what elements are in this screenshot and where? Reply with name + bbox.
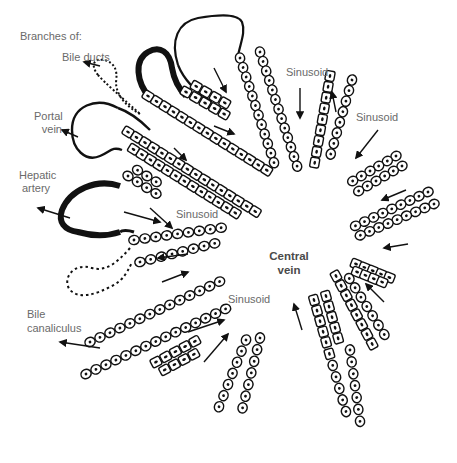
- label-bile-canaliculus-line2: canaliculus: [27, 322, 81, 335]
- label-hepatic-artery-line1: Hepatic: [19, 169, 56, 182]
- hepatocyte-plate-top-2: [254, 46, 303, 173]
- label-sinusoid-left: Sinusoid: [176, 208, 218, 221]
- hepatocyte-plate-top-3: [309, 70, 357, 168]
- label-sinusoid-right: Sinusoid: [356, 111, 398, 124]
- branches-of-heading: Branches of:: [20, 30, 82, 43]
- hepatocyte-cluster-top: [179, 77, 235, 120]
- hepatocyte-plate-left-1: [128, 222, 227, 267]
- liver-lobule-diagram: [0, 0, 457, 463]
- hepatocyte-plate-right-1: [346, 149, 409, 197]
- label-portal-vein-line1: Portal: [34, 110, 62, 123]
- hepatocyte-plate-bottom-1: [213, 332, 266, 414]
- label-portal-vein-line2: vein: [34, 123, 62, 136]
- label-bile-ducts: Bile ducts: [62, 51, 110, 64]
- label-sinusoid-bottom: Sinusoid: [228, 293, 270, 306]
- label-sinusoid-top: Sinusoid: [286, 66, 328, 79]
- label-hepatic-artery-line2: artery: [22, 182, 50, 195]
- label-bile-canaliculus-line1: Bile: [27, 308, 45, 321]
- label-central-vein-line2: vein: [264, 264, 314, 277]
- label-central-vein-line1: Central: [264, 250, 314, 263]
